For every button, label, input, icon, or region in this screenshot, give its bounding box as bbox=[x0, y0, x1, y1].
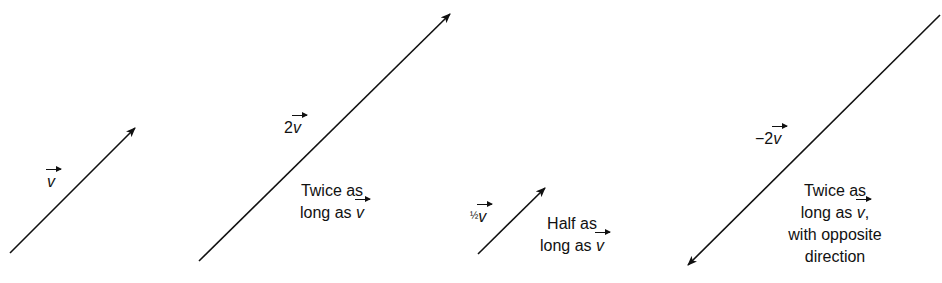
coefficient: 2 bbox=[284, 119, 293, 136]
vector-symbol: v bbox=[478, 207, 486, 227]
caption-line: long as v bbox=[527, 235, 617, 257]
vector-symbol: v bbox=[293, 118, 301, 138]
vector-v-arrow bbox=[10, 128, 135, 253]
caption-line: Twice as bbox=[780, 180, 890, 202]
coefficient: ½ bbox=[470, 210, 478, 221]
coefficient: −2 bbox=[755, 130, 773, 147]
vector-symbol: v bbox=[596, 235, 604, 257]
vector-symbol: v bbox=[356, 202, 364, 224]
label-neg-2v: −2v bbox=[755, 129, 781, 149]
caption-half-v: Half as long as v bbox=[527, 213, 617, 257]
label-v: v bbox=[47, 172, 55, 192]
caption-line: long as v, bbox=[780, 202, 890, 224]
caption-neg-2v: Twice as long as v, with opposite direct… bbox=[780, 180, 890, 268]
label-half-v: ½v bbox=[470, 206, 486, 227]
label-2v: 2v bbox=[284, 118, 301, 138]
caption-line: long as v bbox=[282, 202, 382, 224]
vector-symbol: v bbox=[773, 129, 781, 149]
vector-symbol: v bbox=[47, 172, 55, 192]
caption-2v: Twice as long as v bbox=[282, 180, 382, 224]
vector-symbol: v bbox=[857, 202, 865, 224]
caption-line: with opposite bbox=[780, 224, 890, 246]
caption-line: direction bbox=[780, 246, 890, 268]
